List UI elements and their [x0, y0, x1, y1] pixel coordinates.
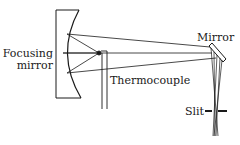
focusing-mirror-label-line2: mirror — [17, 59, 54, 72]
optical-diagram: Focusing mirror Mirror Thermocouple Slit — [0, 0, 240, 145]
mirror-label: Mirror — [197, 31, 235, 44]
collimated-beam — [63, 34, 216, 73]
thermocouple — [97, 51, 107, 109]
thermocouple-junction — [97, 51, 101, 55]
slit-label: Slit — [185, 105, 205, 118]
thermocouple-label: Thermocouple — [110, 74, 190, 87]
focusing-mirror — [56, 10, 81, 98]
reflected-rays — [211, 48, 222, 136]
